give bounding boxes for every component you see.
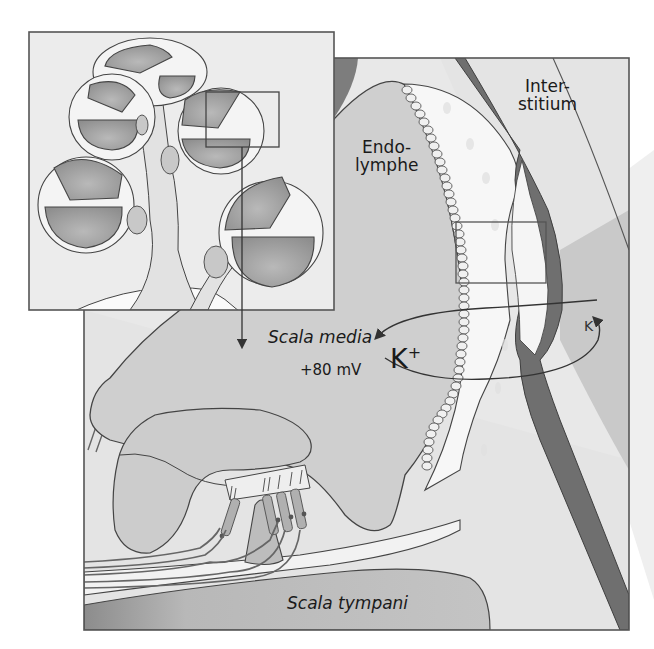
inset-overview <box>29 32 334 312</box>
label-scala-media: Scala media <box>268 329 372 347</box>
label-scala-tympani: Scala tympani <box>287 595 408 613</box>
label-interstitium: Inter- stitium <box>518 78 577 114</box>
label-endocochlear-potential: +80 mV <box>300 363 361 379</box>
label-k-ion-small: K+ <box>584 318 601 334</box>
label-k-ion-large: K+ <box>390 345 421 373</box>
cochlear-turn-4 <box>38 157 134 253</box>
cochlear-turn-3 <box>178 88 264 174</box>
label-endolymphe: Endo- lymphe <box>355 139 418 175</box>
